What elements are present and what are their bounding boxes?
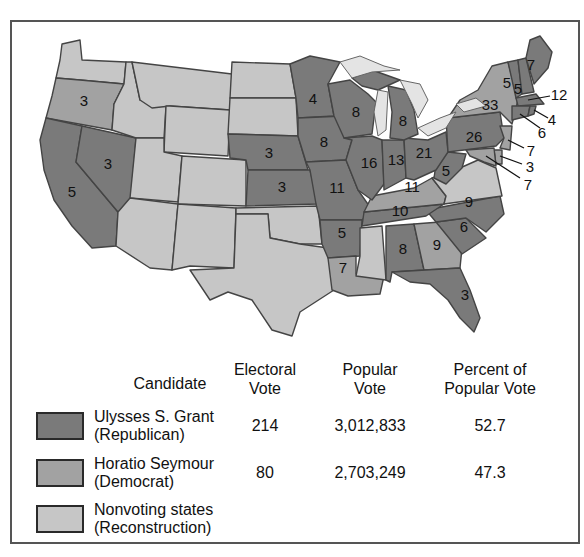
state-montana — [132, 62, 232, 110]
table-row-grant: Ulysses S. Grant (Republican) 214 3,012,… — [24, 408, 580, 452]
header-electoral-line2: Vote — [220, 379, 310, 398]
state-north-dakota — [230, 62, 296, 98]
label-wisconsin: 8 — [352, 103, 360, 120]
label-vermont: 5 — [503, 74, 511, 91]
state-washington — [56, 40, 126, 84]
percent-cell: 52.7 — [430, 417, 550, 435]
label-florida: 3 — [461, 286, 469, 303]
label-maryland: 7 — [524, 176, 532, 193]
label-tennessee: 10 — [392, 202, 409, 219]
label-georgia: 9 — [433, 236, 441, 253]
state-new-mexico — [172, 204, 236, 270]
label-pennsylvania: 26 — [466, 128, 483, 145]
candidate-name: Nonvoting states — [94, 501, 213, 519]
label-alabama: 8 — [399, 240, 407, 257]
header-percent-line1: Percent of — [430, 360, 550, 379]
us-election-map-1868: 3 5 3 3 3 4 8 11 8 16 8 13 21 26 33 5 5 … — [0, 0, 584, 360]
legend-swatch-democrat — [36, 459, 84, 487]
state-connecticut — [512, 106, 530, 120]
label-south-carolina: 6 — [460, 218, 468, 235]
candidate-cell: Nonvoting states (Reconstruction) — [94, 501, 213, 537]
label-indiana: 13 — [388, 151, 405, 168]
label-ohio: 21 — [416, 144, 433, 161]
candidate-party: (Republican) — [94, 426, 214, 444]
label-new-york: 33 — [482, 96, 499, 113]
label-oregon: 3 — [80, 92, 88, 109]
label-louisiana: 7 — [339, 259, 347, 276]
header-candidate-text: Candidate — [134, 375, 207, 392]
label-california: 5 — [68, 183, 76, 200]
electoral-vote-cell: 80 — [220, 464, 310, 482]
candidate-cell: Horatio Seymour (Democrat) — [94, 455, 214, 491]
label-connecticut: 6 — [538, 124, 546, 141]
label-delaware: 3 — [526, 158, 534, 175]
electoral-vote-cell: 214 — [220, 417, 310, 435]
label-illinois: 16 — [361, 154, 378, 171]
state-wyoming — [164, 106, 230, 156]
header-candidate: Candidate — [110, 374, 230, 393]
leader-line-delaware — [500, 156, 522, 164]
header-electoral-line1: Electoral — [220, 360, 310, 379]
popular-vote-cell: 2,703,249 — [320, 464, 420, 482]
percent-cell: 47.3 — [430, 464, 550, 482]
header-percent-line2: Popular Vote — [430, 379, 550, 398]
table-row-nonvoting: Nonvoting states (Reconstruction) — [24, 501, 580, 545]
label-nebraska: 3 — [265, 144, 273, 161]
label-iowa: 8 — [320, 133, 328, 150]
lake-michigan — [374, 90, 388, 136]
header-percent-popular: Percent of Popular Vote — [430, 360, 550, 398]
legend-swatch-republican — [36, 412, 84, 440]
label-new-hampshire: 5 — [514, 80, 522, 97]
label-rhode-island: 4 — [548, 111, 556, 128]
label-maine: 7 — [527, 56, 535, 73]
label-minnesota: 4 — [309, 90, 317, 107]
legend-swatch-nonvoting — [36, 505, 84, 533]
label-massachusetts: 12 — [551, 86, 568, 103]
header-popular-line2: Vote — [320, 379, 420, 398]
label-kansas: 3 — [278, 178, 286, 195]
header-popular-vote: Popular Vote — [320, 360, 420, 398]
candidate-cell: Ulysses S. Grant (Republican) — [94, 408, 214, 444]
label-arkansas: 5 — [338, 224, 346, 241]
leader-line-rhode-island — [534, 110, 548, 118]
header-electoral-vote: Electoral Vote — [220, 360, 310, 398]
state-south-dakota — [228, 98, 298, 136]
state-arizona — [116, 198, 178, 270]
label-new-jersey: 7 — [527, 142, 535, 159]
popular-vote-cell: 3,012,833 — [320, 417, 420, 435]
label-missouri: 11 — [329, 179, 345, 196]
state-colorado — [178, 156, 246, 206]
label-nevada: 3 — [104, 155, 112, 172]
label-north-carolina: 9 — [465, 193, 473, 210]
candidate-party: (Democrat) — [94, 473, 214, 491]
label-kentucky: 11 — [404, 178, 420, 195]
label-west-virginia: 5 — [442, 162, 450, 179]
label-michigan: 8 — [399, 112, 407, 129]
candidate-party: (Reconstruction) — [94, 519, 213, 537]
state-mississippi — [356, 226, 386, 280]
table-row-seymour: Horatio Seymour (Democrat) 80 2,703,249 … — [24, 455, 580, 499]
header-popular-line1: Popular — [320, 360, 420, 379]
candidate-name: Horatio Seymour — [94, 455, 214, 473]
candidate-name: Ulysses S. Grant — [94, 408, 214, 426]
